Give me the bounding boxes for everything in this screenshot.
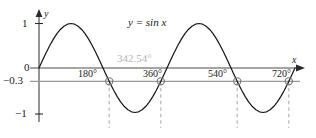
sine-wave-figure: 1 0 −0.3 −1 y x 180° 360° 540° 720° y = … [0,0,316,138]
y-axis-label: y [44,9,48,19]
y-tick-label-1: 1 [22,18,28,29]
y-tick-label-0: 0 [24,62,30,73]
x-axis-label: x [292,55,296,65]
annotation-label-342-54: 342.54° [117,53,152,64]
equation-label: y = sin x [128,17,166,28]
x-tick-label-540: 540° [208,69,227,79]
x-tick-label-360: 360° [143,69,162,79]
y-tick-label-minus-0-3: −0.3 [3,75,23,86]
x-tick-label-720: 720° [272,69,291,79]
intersection-drop-lines [109,81,289,128]
y-tick-label-minus-1: −1 [15,108,27,119]
y-axis-arrowhead [36,9,43,17]
x-tick-label-180: 180° [78,69,97,79]
x-axis-arrowhead [296,65,305,72]
